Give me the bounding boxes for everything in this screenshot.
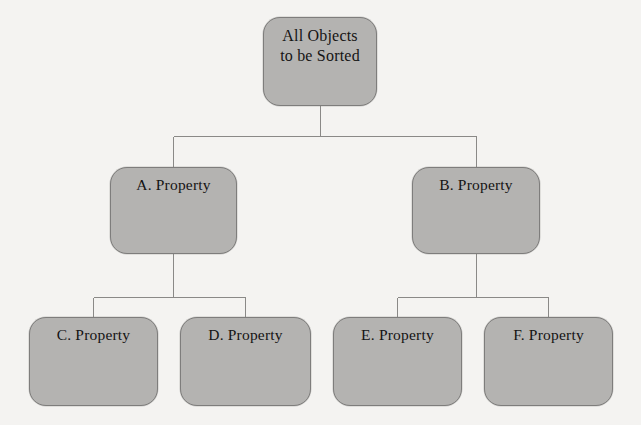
node-a-property-label: A. Property (111, 175, 236, 194)
node-b-property-label: B. Property (413, 175, 539, 194)
node-f-property-label: F. Property (485, 325, 612, 344)
node-c-property[interactable]: C. Property (29, 317, 158, 406)
node-e-property[interactable]: E. Property (333, 317, 462, 406)
node-e-property-label: E. Property (334, 325, 461, 344)
diagram-canvas: All Objects to be Sorted A. Property B. … (0, 0, 641, 425)
node-d-property[interactable]: D. Property (180, 317, 311, 406)
node-c-property-label: C. Property (30, 325, 157, 344)
node-b-property[interactable]: B. Property (412, 167, 540, 254)
node-root-label: All Objects to be Sorted (264, 26, 376, 66)
node-a-property[interactable]: A. Property (110, 167, 237, 254)
node-d-property-label: D. Property (181, 325, 310, 344)
node-root[interactable]: All Objects to be Sorted (263, 17, 377, 106)
node-f-property[interactable]: F. Property (484, 317, 613, 406)
